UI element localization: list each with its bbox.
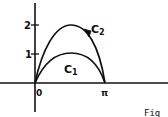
y-tick-label-1: 1 xyxy=(25,49,32,60)
figure-caption: Fig xyxy=(144,108,160,117)
y-tick-label-2: 2 xyxy=(24,20,31,31)
label-c1: C1 xyxy=(64,63,78,77)
x-tick-label-pi: π xyxy=(101,88,108,98)
chart-canvas: 2 1 0 π C2 C1 Fig xyxy=(0,0,168,117)
x-tick-label-origin: 0 xyxy=(36,88,42,98)
label-c2: C2 xyxy=(91,23,105,37)
